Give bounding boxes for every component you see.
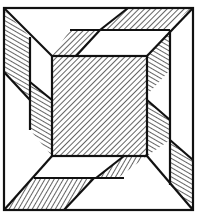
center-square (52, 56, 147, 156)
quilt-block-figure (0, 0, 202, 215)
